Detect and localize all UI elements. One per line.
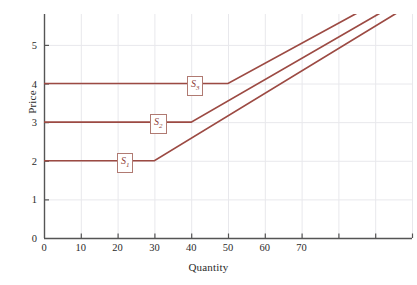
x-tick-label: 60 [260,242,271,253]
x-tick-label: 30 [149,242,160,253]
series-label-s1: S1 [117,153,134,173]
supply-curves-chart: 010203040506070 012345 Price Quantity S1… [0,0,417,285]
y-tick-labels: 012345 [32,40,38,244]
x-tick-label: 70 [296,242,307,253]
x-tick-marks [81,234,412,239]
series-label-s2: S2 [150,114,167,134]
x-tick-label: 20 [112,242,123,253]
y-tick-label: 2 [32,156,37,167]
x-tick-label: 10 [76,242,87,253]
y-tick-label: 0 [32,233,37,244]
series-label-s3: S3 [187,76,204,96]
chart-canvas: 010203040506070 012345 [0,0,417,285]
gridlines [44,14,413,238]
y-tick-label: 5 [32,40,37,51]
x-tick-labels: 010203040506070 [41,242,306,253]
x-tick-label: 50 [223,242,234,253]
x-axis-title: Quantity [0,261,417,273]
x-tick-label: 40 [186,242,197,253]
y-axis-title: Price [26,72,38,132]
x-tick-label: 0 [41,242,46,253]
y-tick-label: 1 [32,194,37,205]
